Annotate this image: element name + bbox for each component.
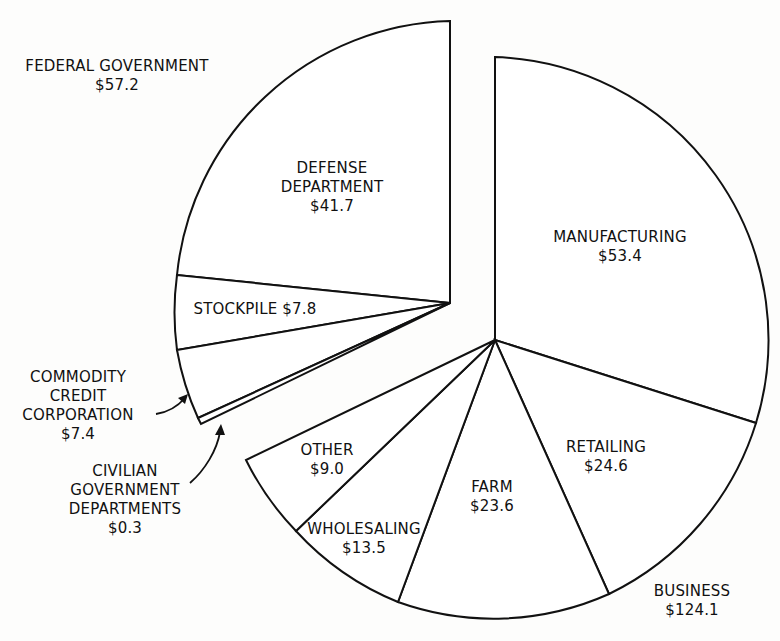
wholesaling-value: $13.5 (307, 539, 421, 558)
manufacturing-value: $53.4 (553, 247, 687, 266)
defense-line1: DEFENSE (281, 159, 384, 178)
federal-government-label: FEDERAL GOVERNMENT $57.2 (25, 57, 208, 95)
civilian-line2: GOVERNMENT (69, 481, 181, 500)
retailing-value: $24.6 (566, 457, 646, 476)
defense-line2: DEPARTMENT (281, 178, 384, 197)
farm-label: FARM $23.6 (470, 478, 514, 516)
manufacturing-label: MANUFACTURING $53.4 (553, 228, 687, 266)
wholesaling-text: WHOLESALING (307, 520, 421, 539)
commodity-value: $7.4 (22, 425, 133, 444)
civilian-value: $0.3 (69, 519, 181, 538)
federal-government-group (174, 21, 450, 424)
civilian-label: CIVILIAN GOVERNMENT DEPARTMENTS $0.3 (69, 462, 181, 538)
commodity-line1: COMMODITY (22, 368, 133, 387)
farm-value: $23.6 (470, 497, 514, 516)
other-value: $9.0 (300, 460, 353, 479)
other-label: OTHER $9.0 (300, 441, 353, 479)
retailing-label: RETAILING $24.6 (566, 438, 646, 476)
business-label: BUSINESS $124.1 (654, 582, 731, 620)
civilian-arrow (190, 432, 220, 483)
retailing-text: RETAILING (566, 438, 646, 457)
manufacturing-text: MANUFACTURING (553, 228, 687, 247)
federal-title: FEDERAL GOVERNMENT (25, 57, 208, 76)
commodity-line2: CREDIT (22, 387, 133, 406)
business-title: BUSINESS (654, 582, 731, 601)
business-total: $124.1 (654, 601, 731, 620)
commodity-arrow (156, 398, 185, 414)
defense-label: DEFENSE DEPARTMENT $41.7 (281, 159, 384, 216)
stockpile-label: STOCKPILE $7.8 (193, 300, 316, 319)
other-text: OTHER (300, 441, 353, 460)
commodity-label: COMMODITY CREDIT CORPORATION $7.4 (22, 368, 133, 444)
stockpile-text: STOCKPILE $7.8 (193, 300, 316, 319)
civilian-line3: DEPARTMENTS (69, 500, 181, 519)
federal-total: $57.2 (25, 76, 208, 95)
defense-value: $41.7 (281, 197, 384, 216)
commodity-line3: CORPORATION (22, 406, 133, 425)
civilian-line1: CIVILIAN (69, 462, 181, 481)
wholesaling-label: WHOLESALING $13.5 (307, 520, 421, 558)
civilian-arrowhead-icon (215, 424, 225, 435)
farm-text: FARM (470, 478, 514, 497)
